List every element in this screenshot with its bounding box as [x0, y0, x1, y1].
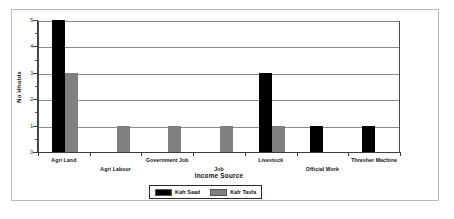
legend-entry: Kafr Saad — [155, 189, 200, 196]
x-tick-label: Thresher Machine — [351, 157, 397, 164]
gridline-y-2 — [39, 100, 399, 101]
x-tick-label: Government Job — [146, 157, 189, 164]
legend-swatch — [155, 189, 172, 196]
bar — [272, 126, 285, 152]
x-tick — [400, 152, 401, 156]
y-tick-label-5: 5 — [23, 18, 33, 23]
plot-area — [38, 21, 400, 153]
y-tick-label-1: 1 — [23, 124, 33, 129]
gridline-y-3 — [39, 74, 399, 75]
y-tick-label-0: 0 — [23, 150, 33, 155]
gridline-y-1 — [39, 127, 399, 128]
legend-label: Kafr Tasfa — [230, 189, 256, 196]
bar — [310, 126, 323, 152]
bar — [65, 73, 78, 152]
x-tick — [193, 152, 194, 156]
x-tick — [90, 152, 91, 156]
gridline-y-4 — [39, 47, 399, 48]
bar — [52, 20, 65, 152]
x-axis-title: Income Source — [38, 172, 400, 180]
chart-figure: No Hholds 012345 Agri LandAgri LabourGov… — [0, 0, 454, 219]
x-tick-label: Livestock — [258, 157, 283, 164]
x-tick — [141, 152, 142, 156]
x-tick — [245, 152, 246, 156]
y-axis-tick-labels: 012345 — [19, 21, 33, 153]
x-tick — [297, 152, 298, 156]
bar — [362, 126, 375, 152]
legend-label: Kafr Saad — [175, 189, 200, 196]
y-tick-label-2: 2 — [23, 97, 33, 102]
legend-entry: Kafr Tasfa — [210, 189, 256, 196]
chart-legend: Kafr SaadKafr Tasfa — [149, 185, 262, 199]
x-axis-line — [38, 152, 400, 153]
bar — [220, 126, 233, 152]
x-tick — [38, 152, 39, 156]
x-tick — [348, 152, 349, 156]
bar — [168, 126, 181, 152]
gridline-y-5 — [39, 21, 399, 22]
y-tick-label-3: 3 — [23, 71, 33, 76]
y-tick-label-4: 4 — [23, 44, 33, 49]
x-tick-label: Agri Land — [51, 157, 76, 164]
bar — [117, 126, 130, 152]
bar — [259, 73, 272, 152]
legend-swatch — [210, 189, 227, 196]
